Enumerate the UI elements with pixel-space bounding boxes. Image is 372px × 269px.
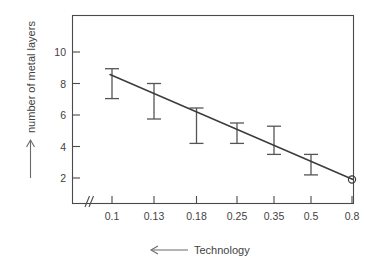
x-axis-ticks — [112, 196, 352, 204]
y-axis-title: number of metal layers — [25, 21, 37, 133]
x-axis-title: Technology — [194, 244, 250, 256]
x-tick-label-4: 0.35 — [264, 210, 285, 222]
y-tick-label-4: 4 — [60, 141, 66, 153]
y-axis-title-group: number of metal layers — [25, 21, 37, 178]
x-tick-label-1: 0.13 — [144, 210, 165, 222]
x-tick-label-2: 0.18 — [186, 210, 207, 222]
x-tick-label-3: 0.25 — [227, 210, 248, 222]
y-tick-label-8: 8 — [60, 78, 66, 90]
x-axis-tick-labels: 0.1 0.13 0.18 0.25 0.35 0.5 0.8 — [105, 210, 360, 222]
trend-line — [110, 75, 353, 180]
error-bars — [105, 69, 318, 175]
chart-figure: 10 8 6 4 2 0.1 0.13 0.18 0.25 0.35 — [0, 0, 372, 269]
x-tick-label-0: 0.1 — [105, 210, 120, 222]
y-tick-label-2: 2 — [60, 172, 66, 184]
x-tick-label-5: 0.5 — [304, 210, 319, 222]
y-axis-tick-labels: 10 8 6 4 2 — [54, 46, 66, 184]
y-tick-label-10: 10 — [54, 46, 66, 58]
x-tick-label-6: 0.8 — [345, 210, 360, 222]
x-axis-title-group: Technology — [151, 244, 250, 256]
y-axis-ticks — [73, 52, 81, 178]
y-tick-label-6: 6 — [60, 109, 66, 121]
axis-break-icon — [85, 196, 94, 207]
chart-svg: 10 8 6 4 2 0.1 0.13 0.18 0.25 0.35 — [0, 0, 372, 269]
